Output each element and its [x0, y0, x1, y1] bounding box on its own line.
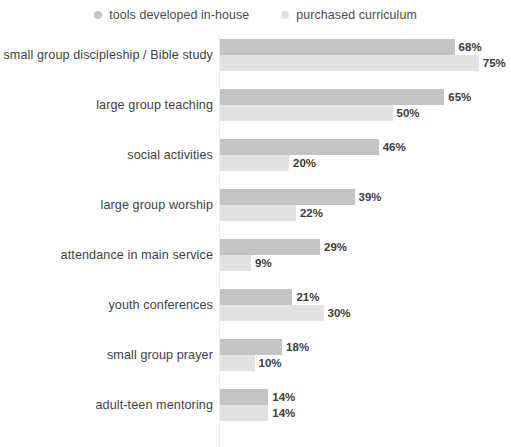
- category-label: small group prayer: [0, 336, 213, 374]
- bar-value-label: 65%: [444, 89, 471, 105]
- plot-area: small group discipleship / Bible study68…: [0, 36, 511, 447]
- bar-value-label: 18%: [282, 339, 309, 355]
- bar-1[interactable]: [220, 205, 296, 221]
- bar-value-label: 20%: [289, 155, 316, 171]
- bar-0[interactable]: [220, 39, 455, 55]
- bar-row: attendance in main service29%9%: [0, 236, 511, 286]
- bar-value-label: 22%: [296, 205, 323, 221]
- legend-entry-purchased-curriculum[interactable]: purchased curriculum: [281, 8, 416, 22]
- bar-row: large group teaching65%50%: [0, 86, 511, 136]
- bar-1[interactable]: [220, 355, 255, 371]
- bar-row: large group worship39%22%: [0, 186, 511, 236]
- bar-value-label: 30%: [324, 305, 351, 321]
- legend-label: purchased curriculum: [296, 8, 416, 22]
- bar-0[interactable]: [220, 89, 444, 105]
- bar-1[interactable]: [220, 105, 393, 121]
- bar-0[interactable]: [220, 139, 379, 155]
- bar-1[interactable]: [220, 155, 289, 171]
- bar-row: adult-teen mentoring14%14%: [0, 386, 511, 436]
- bar-1[interactable]: [220, 405, 268, 421]
- category-label: large group worship: [0, 186, 213, 224]
- bar-1[interactable]: [220, 55, 479, 71]
- bar-0[interactable]: [220, 189, 355, 205]
- bar-0[interactable]: [220, 389, 268, 405]
- bar-value-label: 46%: [379, 139, 406, 155]
- bar-value-label: 9%: [251, 255, 272, 271]
- bar-value-label: 10%: [255, 355, 282, 371]
- legend-entry-tools-developed-in-house[interactable]: tools developed in-house: [94, 8, 249, 22]
- category-label: adult-teen mentoring: [0, 386, 213, 424]
- bar-1[interactable]: [220, 255, 251, 271]
- bar-value-label: 21%: [292, 289, 319, 305]
- bar-0[interactable]: [220, 239, 320, 255]
- bar-value-label: 68%: [455, 39, 482, 55]
- bar-row: small group prayer18%10%: [0, 336, 511, 386]
- legend-dot-icon: [281, 11, 289, 19]
- bar-row: social activities46%20%: [0, 136, 511, 186]
- category-label: youth conferences: [0, 286, 213, 324]
- bar-chart: tools developed in-house purchased curri…: [0, 0, 511, 447]
- category-label: attendance in main service: [0, 236, 213, 274]
- bar-value-label: 14%: [268, 405, 295, 421]
- bar-1[interactable]: [220, 305, 324, 321]
- category-label: social activities: [0, 136, 213, 174]
- bar-row: youth conferences21%30%: [0, 286, 511, 336]
- legend-label: tools developed in-house: [109, 8, 249, 22]
- bar-value-label: 75%: [479, 55, 506, 71]
- bar-row: small group discipleship / Bible study68…: [0, 36, 511, 86]
- bar-value-label: 39%: [355, 189, 382, 205]
- bar-value-label: 14%: [268, 389, 295, 405]
- category-label: small group discipleship / Bible study: [0, 36, 213, 74]
- bar-0[interactable]: [220, 289, 292, 305]
- legend-dot-icon: [94, 11, 102, 19]
- bar-value-label: 29%: [320, 239, 347, 255]
- chart-legend: tools developed in-house purchased curri…: [0, 5, 511, 25]
- category-label: large group teaching: [0, 86, 213, 124]
- bar-value-label: 50%: [393, 105, 420, 121]
- bar-0[interactable]: [220, 339, 282, 355]
